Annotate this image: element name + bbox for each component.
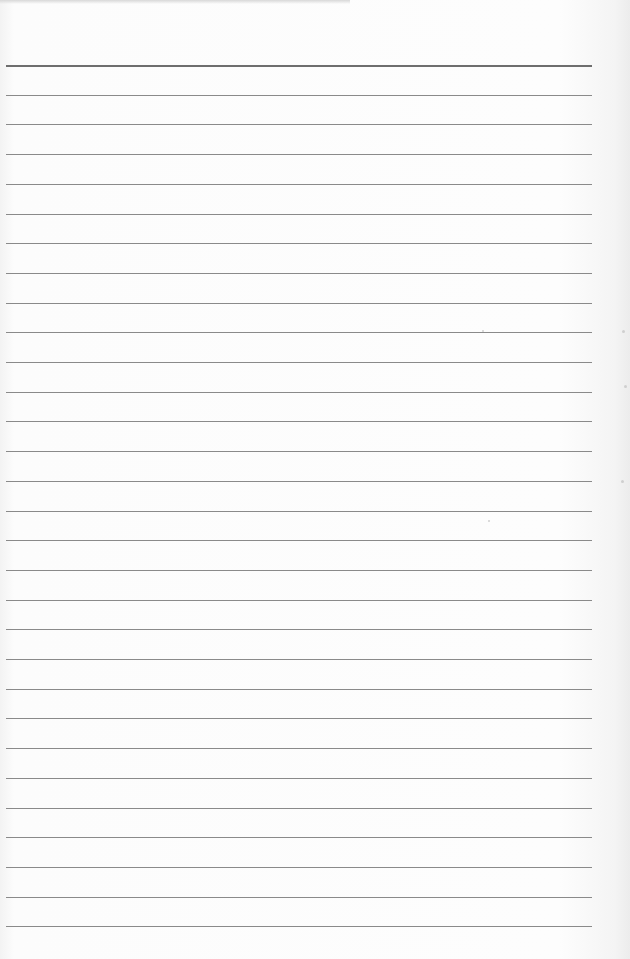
rule-line <box>6 689 592 690</box>
rule-line <box>6 95 592 96</box>
rule-line <box>6 867 592 868</box>
rule-line <box>6 451 592 452</box>
rule-line <box>6 511 592 512</box>
rule-line <box>6 808 592 809</box>
rule-line <box>6 481 592 482</box>
rule-line <box>6 926 592 927</box>
rule-line <box>6 332 592 333</box>
rule-line <box>6 778 592 779</box>
rule-line <box>6 897 592 898</box>
header-rule-line <box>6 65 592 67</box>
scan-shadow <box>0 0 350 4</box>
rule-line <box>6 362 592 363</box>
rule-line <box>6 629 592 630</box>
scan-speck <box>624 385 627 388</box>
scan-speck <box>621 480 624 483</box>
rule-line <box>6 392 592 393</box>
rule-line <box>6 154 592 155</box>
scan-speck <box>488 520 490 522</box>
rule-line <box>6 214 592 215</box>
rule-line <box>6 124 592 125</box>
rule-line <box>6 718 592 719</box>
rule-line <box>6 659 592 660</box>
rule-line <box>6 748 592 749</box>
rule-line <box>6 540 592 541</box>
scan-speck <box>482 330 484 332</box>
rule-line <box>6 600 592 601</box>
rule-line <box>6 837 592 838</box>
rule-line <box>6 421 592 422</box>
scan-speck <box>622 330 625 333</box>
rule-line <box>6 243 592 244</box>
rule-line <box>6 303 592 304</box>
lined-paper-page <box>0 0 630 959</box>
rule-line <box>6 184 592 185</box>
rule-line <box>6 570 592 571</box>
rule-line <box>6 273 592 274</box>
